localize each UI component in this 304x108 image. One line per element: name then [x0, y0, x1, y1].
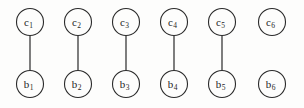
node-c6[interactable]: c6: [259, 9, 286, 36]
node-c4[interactable]: c4: [161, 9, 188, 36]
graph-svg: c1c2c3c4c5c6 b1b2b3b4b5b6: [0, 0, 304, 108]
node-b5[interactable]: b5: [209, 71, 236, 98]
node-c2[interactable]: c2: [65, 9, 92, 36]
node-b2[interactable]: b2: [65, 71, 92, 98]
node-b3[interactable]: b3: [113, 71, 140, 98]
node-c3[interactable]: c3: [113, 9, 140, 36]
edges-group: [30, 36, 222, 71]
node-b1[interactable]: b1: [17, 71, 44, 98]
node-c5[interactable]: c5: [209, 9, 236, 36]
node-c1[interactable]: c1: [17, 9, 44, 36]
node-b6[interactable]: b6: [259, 71, 286, 98]
node-b4[interactable]: b4: [161, 71, 188, 98]
diagram-canvas: c1c2c3c4c5c6 b1b2b3b4b5b6: [0, 0, 304, 108]
bottom-nodes-group: b1b2b3b4b5b6: [17, 71, 286, 98]
top-nodes-group: c1c2c3c4c5c6: [17, 9, 286, 36]
